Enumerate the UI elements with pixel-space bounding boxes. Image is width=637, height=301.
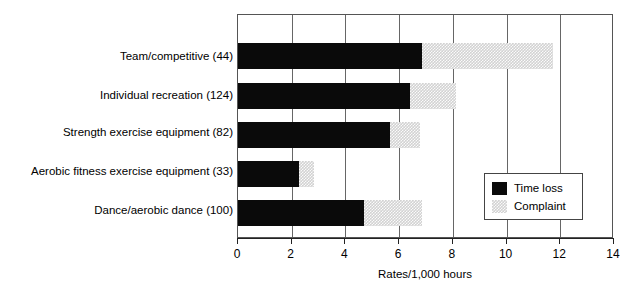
x-tick-12 <box>559 238 560 244</box>
x-tick-label-6: 6 <box>395 247 402 261</box>
category-label-dance-aerobic-dance: Dance/aerobic dance (100) <box>5 204 233 217</box>
x-tick-4 <box>344 238 345 244</box>
x-tick-label-12: 12 <box>553 247 566 261</box>
bar-segment-time-loss <box>238 161 299 187</box>
legend-entry-time-loss: Time loss <box>492 179 582 197</box>
x-tick-10 <box>506 238 507 244</box>
bar-row <box>238 161 314 187</box>
x-tick-8 <box>452 238 453 244</box>
x-tick-label-0: 0 <box>234 247 241 261</box>
x-tick-label-14: 14 <box>606 247 619 261</box>
category-axis-labels: Team/competitive (44) Individual recreat… <box>0 0 233 301</box>
legend-label-time-loss: Time loss <box>514 182 563 194</box>
bar-row <box>238 83 456 109</box>
x-axis-title: Rates/1,000 hours <box>237 268 613 280</box>
legend-swatch-complaint-icon <box>492 200 507 213</box>
legend-label-complaint: Complaint <box>514 200 566 212</box>
bar-segment-complaint <box>390 122 419 148</box>
x-tick-14 <box>613 238 614 244</box>
bar-row <box>238 43 553 69</box>
bar-segment-complaint <box>422 43 553 69</box>
legend-swatch-time-loss-icon <box>492 182 507 195</box>
chart-figure: Team/competitive (44) Individual recreat… <box>0 0 637 301</box>
x-tick-0 <box>237 238 238 244</box>
bar-segment-time-loss <box>238 122 390 148</box>
bar-segment-time-loss <box>238 43 422 69</box>
x-tick-label-10: 10 <box>499 247 512 261</box>
x-tick-label-4: 4 <box>341 247 348 261</box>
bar-segment-complaint <box>410 83 455 109</box>
category-label-aerobic-fitness-exercise-equipment: Aerobic fitness exercise equipment (33) <box>5 165 233 178</box>
category-label-team-competitive: Team/competitive (44) <box>5 50 233 63</box>
chart-legend: Time loss Complaint <box>484 173 583 220</box>
x-tick-label-2: 2 <box>287 247 294 261</box>
category-label-individual-recreation: Individual recreation (124) <box>5 89 233 102</box>
x-tick-label-8: 8 <box>449 247 456 261</box>
category-label-strength-exercise-equipment: Strength exercise equipment (82) <box>5 126 233 139</box>
bar-row <box>238 200 422 226</box>
legend-entry-complaint: Complaint <box>492 197 582 215</box>
bar-segment-complaint <box>364 200 423 226</box>
x-axis-line <box>237 238 613 239</box>
x-tick-2 <box>291 238 292 244</box>
bar-segment-complaint <box>299 161 314 187</box>
bar-row <box>238 122 420 148</box>
x-tick-6 <box>398 238 399 244</box>
bar-segment-time-loss <box>238 83 410 109</box>
bar-segment-time-loss <box>238 200 364 226</box>
